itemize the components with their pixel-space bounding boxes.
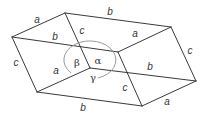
edge-label-a: a [164, 96, 170, 107]
edge-label-a: a [34, 14, 40, 25]
edge-label-c: c [14, 57, 19, 68]
edge-origin-bottom_left [37, 68, 90, 92]
unit-cell-diagram: abbcaccabcba βαγ [0, 0, 205, 118]
edge-left-top_front [12, 37, 118, 52]
edge-label-b: b [147, 61, 153, 72]
edge-top_front-bottom_front [118, 52, 142, 106]
edge-label-b: b [107, 6, 113, 17]
angle-label-gamma: γ [90, 72, 96, 83]
angle-label-alpha: α [95, 55, 102, 66]
parallelepiped-edges [12, 13, 196, 106]
edge-bottom_left-bottom_front [37, 92, 142, 106]
edge-label-c: c [80, 25, 85, 36]
edge-label-a: a [132, 28, 138, 39]
edge-label-a: a [53, 65, 59, 76]
edge-label-b: b [52, 31, 58, 42]
edge-label-c: c [188, 45, 193, 56]
edge-label-c: c [123, 82, 128, 93]
edge-label-b: b [80, 102, 86, 113]
edge-labels: abbcaccabcba [14, 6, 193, 113]
edge-top_front-top_right [118, 27, 171, 52]
angle-label-beta: β [74, 57, 80, 68]
